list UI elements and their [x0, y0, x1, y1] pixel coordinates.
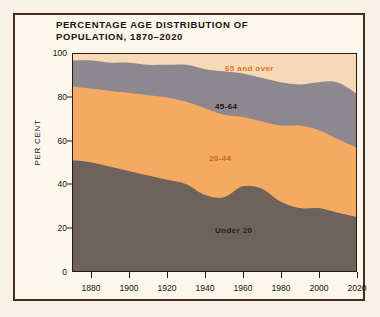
x-tick-label: 2000	[299, 283, 339, 293]
band-label-20-44: 20-44	[209, 154, 231, 163]
y-tick-label: 0	[37, 267, 67, 277]
y-tick-label: 20	[37, 223, 67, 233]
x-tick-mark	[91, 272, 92, 278]
band-label-under-20: Under 20	[215, 226, 252, 235]
x-tick-label: 1920	[147, 283, 187, 293]
x-tick-mark	[167, 272, 168, 278]
band-label-45-64: 45-64	[215, 102, 237, 111]
x-axis-tick-labels: 18801900192019401960198020002020	[72, 272, 357, 298]
x-tick-mark	[129, 272, 130, 278]
y-tick-label: 60	[37, 136, 67, 146]
x-tick-mark	[205, 272, 206, 278]
x-tick-label: 2020	[337, 283, 377, 293]
y-tick-label: 40	[37, 179, 67, 189]
y-axis-tick-labels: 020406080100	[33, 53, 67, 272]
y-tick-label: 80	[37, 92, 67, 102]
x-tick-label: 1960	[223, 283, 263, 293]
page-title: PERCENTAGE AGE DISTRIBUTION OF POPULATIO…	[56, 19, 336, 42]
band-label-65-and-over: 65 and over	[225, 64, 274, 73]
x-tick-label: 1980	[261, 283, 301, 293]
x-tick-label: 1940	[185, 283, 225, 293]
plot-area: 65 and over 45-64 20-44 Under 20	[72, 53, 357, 272]
x-tick-label: 1880	[71, 283, 111, 293]
x-tick-mark	[319, 272, 320, 278]
x-tick-mark	[243, 272, 244, 278]
y-tick-label: 100	[37, 48, 67, 58]
x-tick-label: 1900	[109, 283, 149, 293]
x-tick-mark	[357, 272, 358, 278]
x-tick-mark	[281, 272, 282, 278]
chart-figure: PERCENTAGE AGE DISTRIBUTION OF POPULATIO…	[0, 0, 380, 317]
